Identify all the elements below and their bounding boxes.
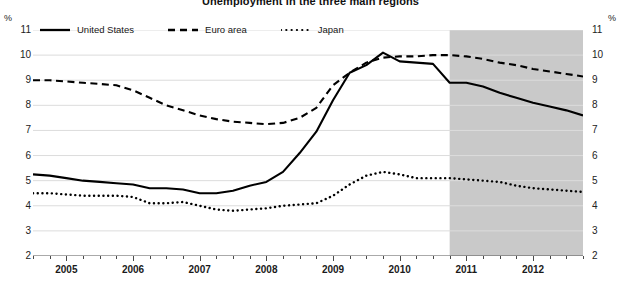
y-axis-tick-label-right: 11: [592, 25, 621, 35]
x-axis-tick-label: 2009: [303, 264, 363, 275]
x-axis-minor-tick: [516, 256, 517, 259]
x-axis-tick-label: 2008: [236, 264, 296, 275]
x-axis-minor-tick: [566, 256, 567, 259]
legend-item: United States: [40, 25, 134, 35]
y-axis-tick-label-left: 8: [1, 100, 31, 110]
legend-label: Japan: [318, 25, 344, 35]
x-axis-major-tick: [266, 256, 267, 261]
x-axis-minor-tick: [33, 256, 34, 259]
y-axis-tick-label-right: 8: [592, 100, 621, 110]
x-axis-major-tick: [466, 256, 467, 261]
legend-label: Euro area: [205, 25, 247, 35]
y-axis-tick-label-left: 6: [1, 151, 31, 161]
chart-title: Unemployment in the three main regions: [0, 0, 621, 7]
y-axis-tick-label-right: 6: [592, 151, 621, 161]
legend-swatch-dotted: [281, 25, 311, 35]
x-axis-minor-tick: [250, 256, 251, 259]
plot-area: [33, 30, 583, 256]
x-axis-minor-tick: [433, 256, 434, 259]
x-axis-major-tick: [66, 256, 67, 261]
x-axis-minor-tick: [150, 256, 151, 259]
y-axis-tick-label-right: 3: [592, 226, 621, 236]
x-axis-tick-label: 2007: [170, 264, 230, 275]
y-axis-tick-label-right: 10: [592, 50, 621, 60]
x-axis-minor-tick: [300, 256, 301, 259]
x-axis-minor-tick: [416, 256, 417, 259]
x-axis-minor-tick: [366, 256, 367, 259]
x-axis-minor-tick: [450, 256, 451, 259]
x-axis-major-tick: [533, 256, 534, 261]
x-axis-minor-tick: [550, 256, 551, 259]
legend-swatch-dashed: [168, 25, 198, 35]
forecast-shaded-region: [450, 30, 583, 256]
chart-legend: United StatesEuro areaJapan: [40, 22, 378, 38]
x-axis-minor-tick: [350, 256, 351, 259]
x-axis-tick-label: 2011: [436, 264, 496, 275]
legend-swatch-solid: [40, 25, 70, 35]
y-axis-tick-label-left: 5: [1, 176, 31, 186]
y-axis-tick-label-left: 7: [1, 125, 31, 135]
x-axis-tick-label: 2005: [36, 264, 96, 275]
plot-svg: [33, 30, 583, 256]
y-axis-tick-label-left: 11: [1, 25, 31, 35]
y-axis-tick-label-left: 4: [1, 201, 31, 211]
x-axis-minor-tick: [500, 256, 501, 259]
x-axis-minor-tick: [166, 256, 167, 259]
x-axis-major-tick: [133, 256, 134, 261]
x-axis-minor-tick: [233, 256, 234, 259]
x-axis-minor-tick: [216, 256, 217, 259]
x-axis-tick-label: 2006: [103, 264, 163, 275]
y-axis-tick-label-right: 2: [592, 251, 621, 261]
y-axis-unit-right: %: [608, 13, 616, 23]
x-axis-major-tick: [400, 256, 401, 261]
x-axis-minor-tick: [583, 256, 584, 259]
x-axis-major-tick: [200, 256, 201, 261]
y-axis-tick-label-right: 5: [592, 176, 621, 186]
x-axis-minor-tick: [50, 256, 51, 259]
x-axis-minor-tick: [283, 256, 284, 259]
x-axis-minor-tick: [383, 256, 384, 259]
x-axis-major-tick: [333, 256, 334, 261]
x-axis-tick-label: 2012: [503, 264, 563, 275]
x-axis-minor-tick: [316, 256, 317, 259]
y-axis-tick-label-right: 4: [592, 201, 621, 211]
y-axis-tick-label-left: 9: [1, 75, 31, 85]
x-axis-minor-tick: [116, 256, 117, 259]
legend-item: Euro area: [168, 25, 247, 35]
y-axis-tick-label-right: 7: [592, 125, 621, 135]
y-axis-tick-label-right: 9: [592, 75, 621, 85]
y-axis-tick-label-left: 3: [1, 226, 31, 236]
x-axis-minor-tick: [483, 256, 484, 259]
x-axis-tick-label: 2010: [370, 264, 430, 275]
chart-figure: Unemployment in the three main regions %…: [0, 0, 621, 284]
legend-label: United States: [77, 25, 134, 35]
x-axis-minor-tick: [83, 256, 84, 259]
y-axis-unit-left: %: [4, 13, 12, 23]
legend-item: Japan: [281, 25, 344, 35]
x-axis-minor-tick: [183, 256, 184, 259]
y-axis-tick-label-left: 10: [1, 50, 31, 60]
y-axis-tick-label-left: 2: [1, 251, 31, 261]
x-axis-minor-tick: [100, 256, 101, 259]
